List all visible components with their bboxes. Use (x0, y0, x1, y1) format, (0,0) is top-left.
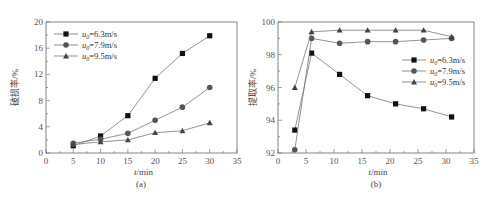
y-tick-label: 0 (39, 148, 44, 158)
x-tick-label: 20 (386, 156, 396, 166)
y-axis-label: 提取率/% (247, 68, 258, 106)
y-tick-label: 12 (34, 69, 43, 79)
x-tick-label: 30 (442, 156, 452, 166)
legend: u0=6.3m/su0=7.9m/su0=9.5m/s (54, 29, 117, 62)
x-tick-label: 5 (304, 156, 309, 166)
legend-item-label: u0=9.5m/s (82, 51, 117, 62)
circle-marker-icon (337, 40, 343, 46)
circle-marker-icon (125, 131, 131, 137)
y-tick-label: 16 (34, 43, 44, 53)
circle-marker-icon (292, 147, 298, 153)
circle-marker-icon (152, 117, 158, 123)
y-tick-label: 98 (266, 50, 276, 60)
triangle-marker-icon (292, 85, 298, 90)
triangle-marker-icon (207, 120, 213, 125)
circle-marker-icon (180, 104, 186, 110)
square-marker-icon (337, 72, 342, 77)
square-marker-icon (292, 127, 297, 132)
square-legend-icon (411, 57, 416, 62)
series-line (73, 123, 209, 145)
circle-legend-icon (411, 68, 417, 74)
x-tick-label: 0 (276, 156, 281, 166)
panel-label: (a) (136, 179, 146, 189)
chart-panel-b: 0510152025303592949698100t/min提取率/%(b)u0… (247, 17, 479, 189)
x-tick-label: 25 (414, 156, 424, 166)
x-tick-label: 35 (233, 156, 243, 166)
chart-panel-a: 05101520253035048121620t/min破损率/%(a)u0=6… (9, 17, 242, 189)
legend-item-label: u0=7.9m/s (430, 66, 465, 77)
series-line (295, 30, 452, 87)
y-tick-label: 100 (262, 17, 276, 27)
y-tick-label: 92 (266, 148, 275, 158)
y-tick-label: 8 (39, 96, 44, 106)
square-marker-icon (207, 33, 212, 38)
square-legend-icon (63, 31, 68, 36)
y-axis-label: 破损率/% (9, 68, 20, 106)
square-marker-icon (421, 106, 426, 111)
y-tick-label: 20 (34, 17, 44, 27)
circle-marker-icon (365, 39, 371, 45)
x-tick-label: 20 (151, 156, 161, 166)
circle-marker-icon (421, 37, 427, 43)
legend-item-label: u0=9.5m/s (430, 77, 465, 88)
legend-item-label: u0=7.9m/s (82, 40, 117, 51)
x-tick-label: 30 (205, 156, 215, 166)
figure: 05101520253035048121620t/min破损率/%(a)u0=6… (0, 0, 492, 197)
series-line (295, 38, 452, 149)
square-marker-icon (153, 76, 158, 81)
y-tick-label: 94 (266, 115, 276, 125)
legend-item-label: u0=6.3m/s (430, 55, 465, 66)
x-tick-label: 10 (96, 156, 106, 166)
y-tick-label: 4 (39, 122, 44, 132)
x-axis-label: t/min (134, 167, 154, 177)
x-tick-label: 15 (123, 156, 133, 166)
series-line (295, 53, 452, 130)
x-tick-label: 15 (358, 156, 368, 166)
x-axis-label: t/min (368, 167, 388, 177)
y-tick-label: 96 (266, 83, 276, 93)
circle-marker-icon (393, 39, 399, 45)
square-marker-icon (393, 101, 398, 106)
square-marker-icon (125, 113, 130, 118)
panel-label: (b) (371, 179, 382, 189)
x-tick-label: 10 (330, 156, 340, 166)
legend-item-label: u0=6.3m/s (82, 29, 117, 40)
square-marker-icon (449, 114, 454, 119)
circle-legend-icon (63, 42, 69, 48)
x-tick-label: 35 (470, 156, 480, 166)
square-marker-icon (180, 51, 185, 56)
x-tick-label: 5 (71, 156, 76, 166)
circle-marker-icon (207, 85, 213, 91)
legend: u0=6.3m/su0=7.9m/su0=9.5m/s (402, 55, 465, 88)
square-marker-icon (365, 93, 370, 98)
x-tick-label: 25 (178, 156, 188, 166)
x-tick-label: 0 (44, 156, 49, 166)
series-line (73, 88, 209, 144)
